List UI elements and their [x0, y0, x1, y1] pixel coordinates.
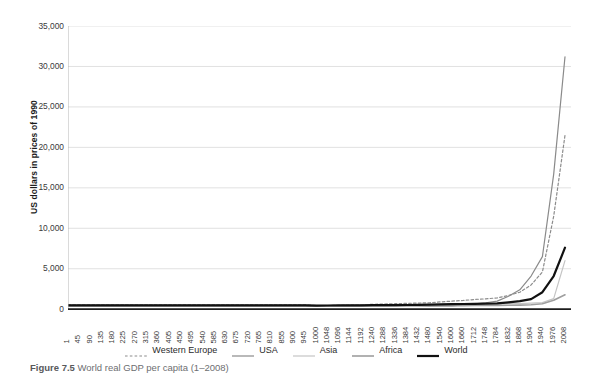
plot-svg — [68, 26, 571, 310]
legend-label: USA — [259, 345, 278, 355]
figure-chart: US dollars in prices of 1990 35,00030,00… — [0, 0, 593, 379]
y-tick-label: 15,000 — [18, 183, 64, 191]
legend-swatch — [417, 346, 439, 354]
figure-caption: Figure 7.5 World real GDP per capita (1–… — [30, 362, 229, 373]
legend-swatch — [293, 346, 315, 354]
gridlines — [68, 26, 571, 269]
y-tick-label: 20,000 — [18, 143, 64, 151]
plot-area — [68, 26, 571, 310]
legend-item-world[interactable]: World — [417, 345, 467, 355]
figure-caption-text: World real GDP per capita (1–2008) — [78, 362, 229, 373]
legend-item-usa[interactable]: USA — [232, 345, 278, 355]
y-tick-label: 5,000 — [18, 264, 64, 272]
series-line-world — [68, 248, 565, 306]
y-tick-label: 30,000 — [18, 62, 64, 70]
y-tick-label: 0 — [18, 305, 64, 313]
legend-swatch — [232, 346, 254, 354]
legend-swatch — [352, 346, 374, 354]
legend-label: Africa — [379, 345, 402, 355]
legend-label: World — [444, 345, 467, 355]
legend-item-africa[interactable]: Africa — [352, 345, 402, 355]
figure-number: Figure 7.5 — [30, 362, 75, 373]
x-axis-tick-labels: 1459013518022527031536040545049554058563… — [68, 312, 571, 344]
legend-swatch — [125, 346, 147, 354]
chart-legend: Western EuropeUSAAsiaAfricaWorld — [0, 342, 593, 358]
series-line-western-europe — [68, 135, 565, 306]
y-tick-label: 10,000 — [18, 224, 64, 232]
y-tick-label: 35,000 — [18, 22, 64, 30]
y-tick-label: 25,000 — [18, 102, 64, 110]
legend-label: Asia — [320, 345, 338, 355]
legend-label: Western Europe — [152, 345, 217, 355]
legend-item-asia[interactable]: Asia — [293, 345, 338, 355]
legend-item-western-europe[interactable]: Western Europe — [125, 345, 217, 355]
y-axis-tick-labels: 35,00030,00025,00020,00015,00010,0005,00… — [14, 0, 64, 330]
